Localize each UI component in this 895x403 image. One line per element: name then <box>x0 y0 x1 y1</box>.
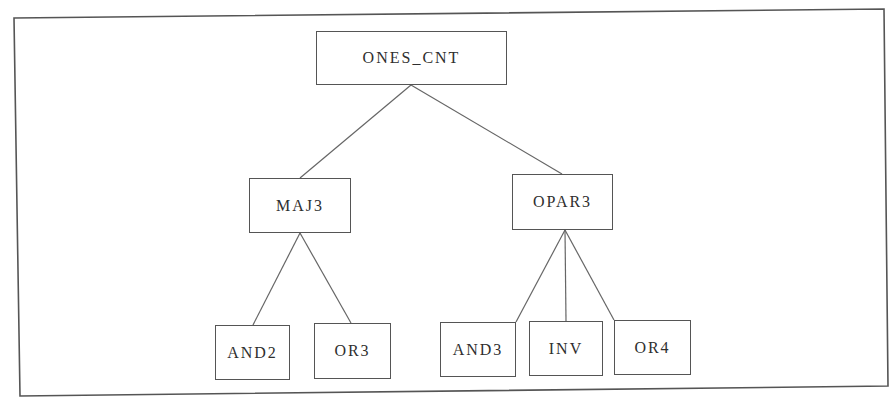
module-hierarchy-diagram: ONES_CNTMAJ3OPAR3AND2OR3AND3INVOR4 <box>0 0 895 403</box>
node-label: ONES_CNT <box>363 49 461 67</box>
edge-ones_cnt-to-opar3 <box>411 85 562 174</box>
node-label: AND2 <box>227 344 278 362</box>
edge-ones_cnt-to-maj3 <box>300 85 411 178</box>
node-label: AND3 <box>453 341 504 359</box>
node-and3: AND3 <box>440 322 516 377</box>
node-or4: OR4 <box>614 320 691 375</box>
node-label: MAJ3 <box>276 197 324 215</box>
node-label: INV <box>549 340 583 358</box>
edge-opar3-to-inv <box>565 230 566 321</box>
node-or3: OR3 <box>314 323 391 379</box>
node-inv: INV <box>529 321 603 376</box>
edge-opar3-to-or4 <box>565 230 614 320</box>
node-maj3: MAJ3 <box>249 178 351 233</box>
node-label: OR3 <box>334 342 370 360</box>
edge-maj3-to-or3 <box>300 233 351 323</box>
node-and2: AND2 <box>215 325 290 380</box>
node-opar3: OPAR3 <box>512 174 613 230</box>
node-ones-cnt: ONES_CNT <box>316 31 507 85</box>
node-label: OPAR3 <box>533 193 592 211</box>
node-label: OR4 <box>634 339 670 357</box>
edge-maj3-to-and2 <box>253 233 300 325</box>
edge-opar3-to-and3 <box>516 230 565 322</box>
